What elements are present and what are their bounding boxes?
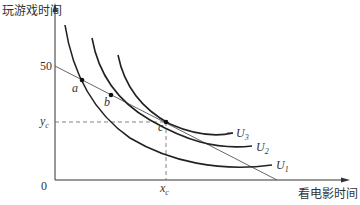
xc-sub: c bbox=[165, 188, 169, 197]
dashed-guides bbox=[55, 122, 166, 180]
u1-label: U1 bbox=[276, 158, 289, 174]
x-axis-label: 看电影时间 bbox=[298, 187, 358, 201]
u3-label: U3 bbox=[236, 126, 249, 142]
curve-u1 bbox=[65, 25, 272, 167]
axes bbox=[53, 3, 351, 183]
yc-label: yc bbox=[39, 114, 49, 130]
xc-label: xc bbox=[159, 181, 169, 197]
origin-label: 0 bbox=[41, 179, 47, 193]
yc-sub: c bbox=[45, 121, 49, 130]
curve-u3 bbox=[118, 55, 233, 135]
u2-label: U2 bbox=[256, 140, 269, 156]
indifference-curve-diagram: 玩游戏时间 看电影时间 0 50 yc xc a b c U3 U2 U1 bbox=[0, 0, 360, 205]
point-c-marker bbox=[164, 120, 169, 125]
point-b-label: b bbox=[104, 95, 110, 109]
point-a-label: a bbox=[72, 81, 78, 95]
x-axis-arrow-icon bbox=[341, 178, 350, 183]
y-intercept-label: 50 bbox=[40, 59, 52, 73]
y-axis-label: 玩游戏时间 bbox=[2, 4, 62, 18]
indifference-curves bbox=[65, 25, 272, 167]
point-a-marker bbox=[80, 78, 85, 83]
curve-u2 bbox=[92, 38, 252, 147]
point-c-label: c bbox=[158, 120, 164, 134]
